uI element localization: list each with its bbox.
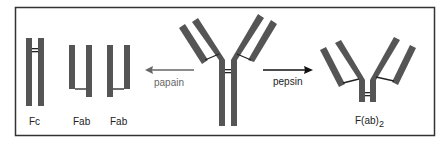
fab-label-2: Fab: [110, 116, 127, 127]
papain-label: papain: [154, 77, 184, 88]
papain-arrow: [145, 66, 194, 74]
fab-fragment-1: [69, 45, 92, 97]
fab-fragment-2: [107, 45, 130, 97]
fc-label: Fc: [29, 116, 40, 127]
fab2-label-text: F(ab): [355, 115, 379, 126]
fab2-label-subscript: 2: [379, 119, 384, 129]
pepsin-label: pepsin: [273, 76, 302, 87]
fab2-label: F(ab)2: [355, 115, 384, 129]
fc-fragment: [26, 38, 44, 106]
fab-label-1: Fab: [73, 116, 90, 127]
pepsin-arrow: [263, 66, 313, 74]
fab2-fragment: [320, 37, 416, 102]
